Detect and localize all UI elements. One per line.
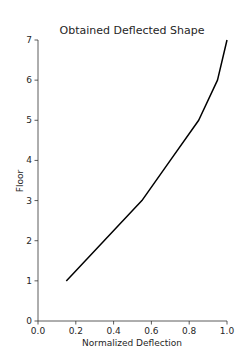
- y-tick-label: 4: [26, 155, 32, 165]
- x-tick-label: 0.2: [69, 326, 83, 336]
- y-tick-label: 1: [26, 276, 32, 286]
- x-tick-label: 0.4: [106, 326, 121, 336]
- y-tick-label: 2: [26, 236, 32, 246]
- x-axis-ticks: 0.00.20.40.60.81.0: [31, 321, 235, 336]
- x-tick-label: 1.0: [220, 326, 235, 336]
- x-axis-label: Normalized Deflection: [82, 338, 182, 348]
- y-tick-label: 7: [26, 35, 32, 45]
- y-tick-label: 6: [26, 75, 32, 85]
- y-axis-ticks: 01234567: [26, 35, 38, 326]
- x-tick-label: 0.8: [182, 326, 197, 336]
- chart-title: Obtained Deflected Shape: [60, 24, 205, 37]
- y-tick-label: 0: [26, 316, 32, 326]
- y-tick-label: 3: [26, 196, 32, 206]
- x-tick-label: 0.0: [31, 326, 46, 336]
- y-axis-label: Floor: [15, 170, 25, 193]
- deflected-shape-chart: Obtained Deflected Shape 0.00.20.40.60.8…: [0, 0, 243, 363]
- x-tick-label: 0.6: [144, 326, 159, 336]
- y-tick-label: 5: [26, 115, 32, 125]
- plot-axes: 0.00.20.40.60.81.0 01234567: [26, 35, 234, 336]
- deflected-shape-line: [66, 40, 227, 281]
